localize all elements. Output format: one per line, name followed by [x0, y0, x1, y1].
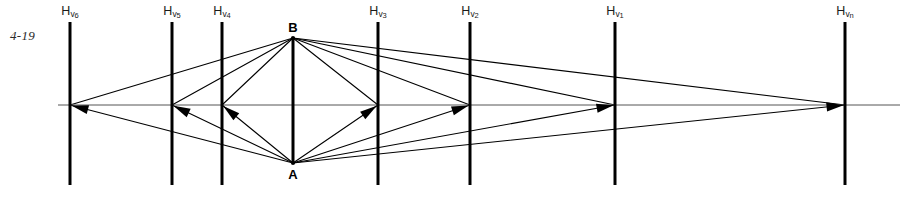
- vanishing-point-label-hv3: Hv3: [369, 5, 386, 20]
- arrowhead-to-hv2: [451, 105, 469, 115]
- perspective-figure-4-19: 4-19 Hv6Hv5Hv4Hv3Hv2Hv1HvnBA: [0, 0, 921, 199]
- ray-b-to-hv6: [70, 38, 293, 105]
- vanishing-point-label-hvn: Hvn: [836, 5, 853, 20]
- point-label-a: A: [288, 168, 297, 181]
- arrowhead-to-hv6: [71, 105, 89, 114]
- ray-a-to-hv2: [293, 105, 470, 163]
- vanishing-point-label-hv6: Hv6: [61, 5, 78, 20]
- ray-b-to-hv3: [293, 38, 378, 105]
- vanishing-point-label-hv4: Hv4: [213, 5, 230, 20]
- ray-b-to-hv2: [293, 38, 470, 105]
- ray-a-to-hv6: [70, 105, 293, 163]
- point-label-b: B: [288, 21, 297, 34]
- vanishing-line-layer: [70, 22, 845, 185]
- arrowhead-to-hv3: [360, 106, 377, 119]
- arrowhead-to-hv5: [173, 106, 190, 117]
- point-marker-a: [291, 161, 295, 165]
- vanishing-point-label-hv2: Hv2: [461, 5, 478, 20]
- vanishing-point-label-hv5: Hv5: [163, 5, 180, 20]
- vanishing-point-label-hv1: Hv1: [606, 5, 623, 20]
- figure-number: 4-19: [10, 28, 35, 44]
- point-marker-b: [291, 36, 295, 40]
- figure-canvas: [0, 0, 921, 199]
- ray-layer: [70, 38, 845, 163]
- arrowhead-to-hv1: [596, 104, 614, 113]
- arrowhead-to-hv4: [223, 106, 239, 120]
